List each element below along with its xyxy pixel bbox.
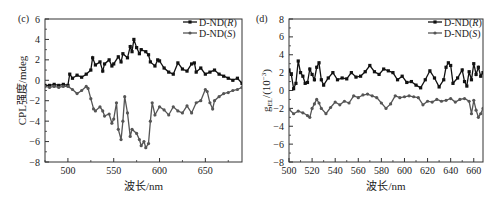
data-point — [474, 109, 477, 112]
data-point — [103, 62, 106, 65]
data-point — [472, 62, 475, 65]
y-tick-label: 4 — [35, 34, 40, 45]
data-point — [444, 99, 447, 102]
data-point — [431, 101, 434, 104]
data-point — [331, 71, 334, 74]
data-point — [190, 111, 193, 114]
y-tick-label: −2 — [29, 95, 40, 106]
series-r — [287, 59, 484, 90]
legend-label: D-ND(S) — [199, 28, 236, 40]
data-point — [421, 103, 424, 106]
legend-marker — [188, 31, 191, 34]
data-point — [193, 61, 196, 64]
y-tick-label: −6 — [29, 136, 40, 147]
data-point — [310, 73, 313, 76]
data-point — [117, 128, 120, 131]
data-point — [231, 79, 234, 82]
x-tick-label: 500 — [282, 165, 297, 176]
data-point — [89, 97, 92, 100]
data-point — [199, 66, 202, 69]
data-point — [424, 78, 427, 81]
data-point — [66, 85, 69, 88]
data-point — [394, 94, 397, 97]
data-point — [240, 82, 243, 85]
y-tick-label: −8 — [29, 157, 40, 168]
data-point — [387, 69, 390, 72]
data-point — [354, 75, 357, 78]
series-s — [43, 85, 243, 149]
figure: −8−6−4−20246500550600650(c)CPL强度/mdeg波长/… — [0, 0, 494, 203]
data-point — [345, 77, 348, 80]
data-point — [341, 76, 344, 79]
data-point — [292, 112, 295, 115]
legend-item-s: D-ND(S) — [428, 28, 481, 40]
data-point — [195, 71, 198, 74]
data-point — [80, 89, 83, 92]
series-s — [287, 92, 484, 118]
data-point — [301, 111, 304, 114]
data-point — [297, 59, 300, 62]
data-point — [217, 73, 220, 76]
data-point — [163, 66, 166, 69]
data-point — [68, 73, 71, 76]
data-point — [428, 69, 431, 72]
legend-marker — [188, 20, 191, 23]
data-point — [147, 142, 150, 145]
data-point — [458, 98, 461, 101]
data-point — [153, 64, 156, 67]
series-r — [43, 38, 243, 87]
data-point — [213, 68, 216, 71]
data-point — [461, 68, 464, 71]
data-point — [463, 80, 466, 83]
data-point — [117, 55, 120, 58]
data-point — [470, 112, 473, 115]
data-point — [94, 63, 97, 66]
data-point — [317, 61, 320, 64]
data-point — [222, 92, 225, 95]
data-point — [477, 66, 480, 69]
data-point — [172, 105, 175, 108]
data-point — [142, 140, 145, 143]
data-point — [121, 120, 124, 123]
data-point — [135, 46, 138, 49]
data-point — [208, 71, 211, 74]
data-point — [297, 109, 300, 112]
data-point — [315, 66, 318, 69]
data-point — [449, 64, 452, 67]
data-point — [167, 71, 170, 74]
data-point — [336, 78, 339, 81]
data-point — [292, 87, 295, 90]
x-tick-label: 650 — [198, 165, 213, 176]
data-point — [206, 90, 209, 93]
data-point — [481, 107, 484, 110]
x-axis-title: 波长/nm — [366, 180, 406, 192]
data-point — [352, 94, 355, 97]
data-point — [151, 101, 154, 104]
data-point — [144, 50, 147, 53]
data-point — [123, 95, 126, 98]
data-point — [481, 71, 484, 74]
data-point — [338, 103, 341, 106]
y-tick-label: 4 — [279, 49, 284, 60]
data-point — [199, 99, 202, 102]
x-tick-label: 550 — [106, 165, 121, 176]
y-tick-label: −6 — [273, 139, 284, 150]
data-point — [227, 77, 230, 80]
data-point — [334, 101, 337, 104]
data-point — [310, 107, 313, 110]
x-tick-label: 540 — [328, 165, 343, 176]
data-point — [62, 85, 65, 88]
data-point — [384, 107, 387, 110]
data-point — [240, 86, 243, 89]
legend-label: D-ND(S) — [444, 28, 481, 40]
data-point — [377, 73, 380, 76]
data-point — [181, 111, 184, 114]
legend-marker — [433, 31, 436, 34]
data-point — [75, 74, 78, 77]
data-point — [112, 118, 115, 121]
data-point — [324, 112, 327, 115]
data-point — [185, 104, 188, 107]
data-point — [176, 61, 179, 64]
data-point — [217, 95, 220, 98]
data-point — [435, 98, 438, 101]
